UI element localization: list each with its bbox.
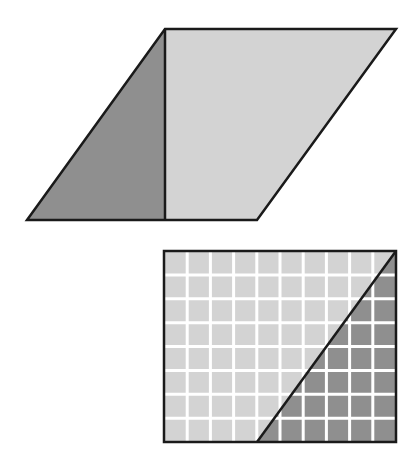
grid-rectangle-figure bbox=[164, 251, 396, 442]
area-diagram bbox=[0, 0, 415, 470]
parallelogram-figure bbox=[27, 29, 396, 220]
parallelogram-right-region bbox=[165, 29, 396, 220]
